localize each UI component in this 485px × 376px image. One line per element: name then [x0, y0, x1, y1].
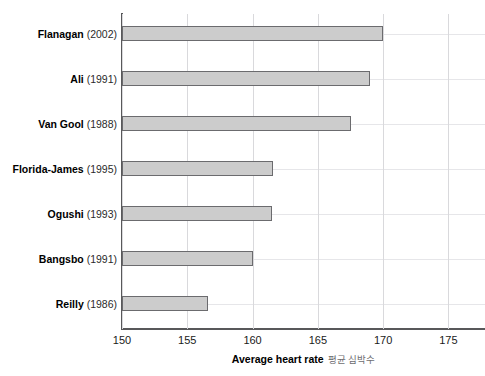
x-axis-title: Average heart rate평균 심박수 [122, 352, 485, 366]
x-tick-label-5: 175 [428, 334, 468, 346]
x-axis-title-korean: 평균 심박수 [328, 354, 376, 365]
category-label-0: Flanagan (2002) [0, 28, 117, 40]
bar [122, 71, 370, 86]
bar-row [122, 104, 485, 142]
bar-chart: Flanagan (2002)Ali (1991)Van Gool (1988)… [0, 0, 485, 376]
bar-row [122, 239, 485, 277]
category-name: Ali [70, 73, 83, 85]
x-axis-title-main: Average heart rate [232, 353, 324, 365]
bar-row [122, 59, 485, 97]
bar [122, 161, 273, 176]
plot-area [122, 14, 485, 329]
category-year: (1991) [84, 253, 117, 265]
category-label-3: Florida-James (1995) [0, 163, 117, 175]
x-tick-label-3: 165 [298, 334, 338, 346]
bar [122, 26, 383, 41]
category-name: Reilly [56, 298, 84, 310]
x-tick-label-0: 150 [102, 334, 142, 346]
category-label-2: Van Gool (1988) [0, 118, 117, 130]
category-name: Ogushi [48, 208, 84, 220]
category-name: Bangsbo [39, 253, 84, 265]
category-label-6: Reilly (1986) [0, 298, 117, 310]
category-year: (1991) [84, 73, 117, 85]
category-year: (1988) [84, 118, 117, 130]
category-year: (1986) [84, 298, 117, 310]
category-label-5: Bangsbo (1991) [0, 253, 117, 265]
category-label-1: Ali (1991) [0, 73, 117, 85]
bar [122, 296, 208, 311]
bar-row [122, 284, 485, 322]
category-name: Florida-James [13, 163, 84, 175]
bar [122, 116, 351, 131]
bar-row [122, 194, 485, 232]
x-tick-label-4: 170 [363, 334, 403, 346]
x-tick-label-2: 160 [233, 334, 273, 346]
bar-row [122, 14, 485, 52]
x-tick-label-1: 155 [167, 334, 207, 346]
category-year: (1995) [84, 163, 117, 175]
bar [122, 206, 272, 221]
bar [122, 251, 253, 266]
category-name: Van Gool [38, 118, 84, 130]
category-name: Flanagan [38, 28, 84, 40]
category-year: (2002) [84, 28, 117, 40]
category-year: (1993) [84, 208, 117, 220]
category-label-4: Ogushi (1993) [0, 208, 117, 220]
bar-row [122, 149, 485, 187]
